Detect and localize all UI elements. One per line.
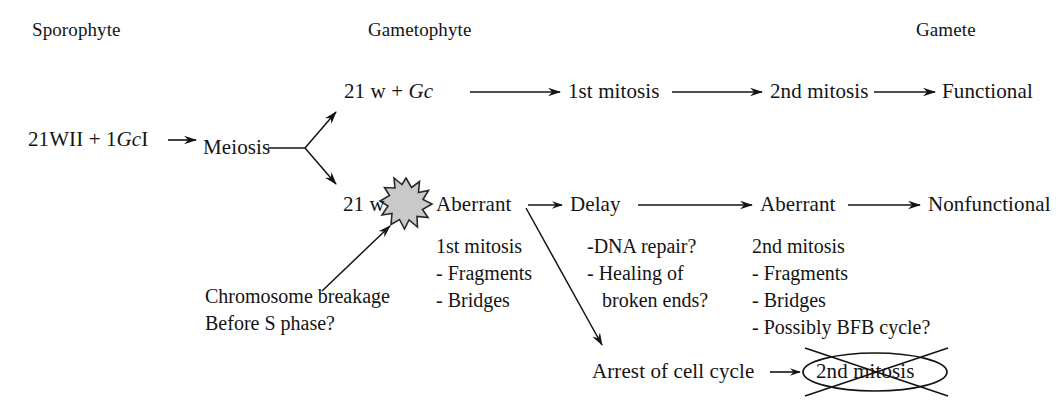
connector-layer: [0, 0, 1058, 417]
delay-node: Delay: [570, 193, 621, 215]
list-item: - Bridges: [436, 287, 532, 314]
blocked-second-mitosis-label: 2nd mitosis: [816, 360, 915, 382]
list-item: - Possibly BFB cycle?: [752, 314, 930, 341]
arrow-meiosis-to-upper-path: [305, 112, 336, 148]
breakage-note-line-2: Before S phase?: [205, 310, 390, 337]
nonfunctional-outcome-node: Nonfunctional: [928, 193, 1051, 215]
list-item: 2nd mitosis: [752, 233, 930, 260]
start-genotype-italic: Gc: [117, 127, 142, 151]
list-item: - Bridges: [752, 287, 930, 314]
start-genotype-node: 21WII + 1GcI: [28, 128, 148, 150]
second-mitosis-defects-list: 2nd mitosis - Fragments - Bridges - Poss…: [752, 233, 930, 341]
lower-genotype-node: 21 w: [343, 193, 385, 215]
list-item: - Fragments: [752, 260, 930, 287]
list-item: 1st mitosis: [436, 233, 532, 260]
upper-first-mitosis-node: 1st mitosis: [568, 80, 660, 102]
start-genotype-suffix: I: [141, 127, 148, 151]
list-item: -DNA repair?: [587, 233, 708, 260]
arrow-meiosis-to-lower-path: [305, 148, 336, 184]
list-item: - Healing of: [587, 260, 708, 287]
breakage-note-line-1: Chromosome breakage: [205, 283, 390, 310]
diagram-canvas: Sporophyte Gametophyte Gamete 21WII + 1G…: [0, 0, 1058, 417]
column-header-gamete: Gamete: [916, 20, 976, 40]
upper-genotype-node: 21 w + Gc: [344, 80, 433, 102]
meiosis-node: Meiosis: [203, 136, 270, 158]
column-header-sporophyte: Sporophyte: [32, 20, 121, 40]
list-item: - Fragments: [436, 260, 532, 287]
start-genotype-prefix: 21WII + 1: [28, 127, 117, 151]
list-item: broken ends?: [587, 287, 708, 314]
arrow-breakage-to-burst: [322, 226, 390, 291]
chromosome-breakage-note: Chromosome breakage Before S phase?: [205, 283, 390, 337]
lower-aberrant-first-node: Aberrant: [436, 193, 511, 215]
lower-aberrant-second-node: Aberrant: [760, 193, 835, 215]
arrest-of-cell-cycle-node: Arrest of cell cycle: [592, 360, 754, 382]
functional-outcome-node: Functional: [942, 80, 1033, 102]
delay-details-list: -DNA repair? - Healing of broken ends?: [587, 233, 708, 314]
first-mitosis-defects-list: 1st mitosis - Fragments - Bridges: [436, 233, 532, 314]
chromosome-breakage-burst-icon: [380, 178, 432, 229]
column-header-gametophyte: Gametophyte: [368, 20, 471, 40]
upper-genotype-prefix: 21 w +: [344, 79, 408, 103]
upper-genotype-italic: Gc: [408, 79, 433, 103]
upper-second-mitosis-node: 2nd mitosis: [770, 80, 869, 102]
